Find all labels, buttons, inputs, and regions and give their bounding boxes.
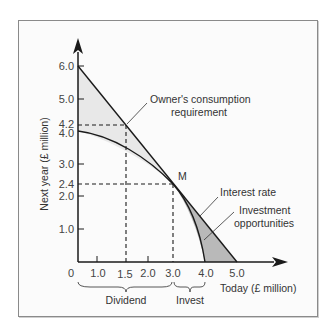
invest-label: Invest bbox=[176, 294, 204, 306]
point-m-label: M bbox=[178, 170, 187, 182]
interest-rate-label: Interest rate bbox=[220, 186, 276, 198]
chart-canvas: 6.0 5.0 4.2 4.0 3.0 2.4 2.0 1.0 0 1.0 1.… bbox=[0, 0, 333, 334]
y-tick-4: 4.0 bbox=[59, 127, 74, 139]
x-tick-3: 3.0 bbox=[165, 267, 180, 279]
owner-label-line1: Owner's consumption bbox=[150, 93, 251, 105]
dividend-label: Dividend bbox=[106, 294, 147, 306]
owner-label-line2: requirement bbox=[171, 106, 227, 118]
investment-label-line2: opportunities bbox=[234, 217, 294, 229]
y-axis-arrow-icon bbox=[73, 38, 83, 54]
interest-leader-line bbox=[200, 197, 218, 216]
y-tick-5: 5.0 bbox=[59, 93, 74, 105]
x-tick-1-5: 1.5 bbox=[117, 268, 132, 280]
y-axis-title: Next year (£ million) bbox=[38, 117, 50, 210]
dividend-brace bbox=[78, 282, 172, 292]
y-tick-3: 3.0 bbox=[59, 158, 74, 170]
investment-label-line1: Investment bbox=[239, 204, 290, 216]
x-axis-title: Today (£ million) bbox=[220, 282, 296, 294]
x-tick-5: 5.0 bbox=[229, 267, 244, 279]
owner-leader-line bbox=[127, 103, 147, 124]
y-tick-1: 1.0 bbox=[59, 223, 74, 235]
x-ticks bbox=[97, 256, 148, 262]
y-tick-2-4: 2.4 bbox=[59, 178, 74, 190]
x-tick-2: 2.0 bbox=[140, 267, 155, 279]
y-tick-2: 2.0 bbox=[59, 190, 74, 202]
invest-brace bbox=[174, 282, 205, 292]
x-tick-4: 4.0 bbox=[198, 267, 213, 279]
y-tick-6: 6.0 bbox=[59, 60, 74, 72]
x-tick-1: 1.0 bbox=[90, 267, 105, 279]
x-tick-0: 0 bbox=[68, 267, 74, 279]
x-axis-arrow-icon bbox=[272, 257, 288, 267]
